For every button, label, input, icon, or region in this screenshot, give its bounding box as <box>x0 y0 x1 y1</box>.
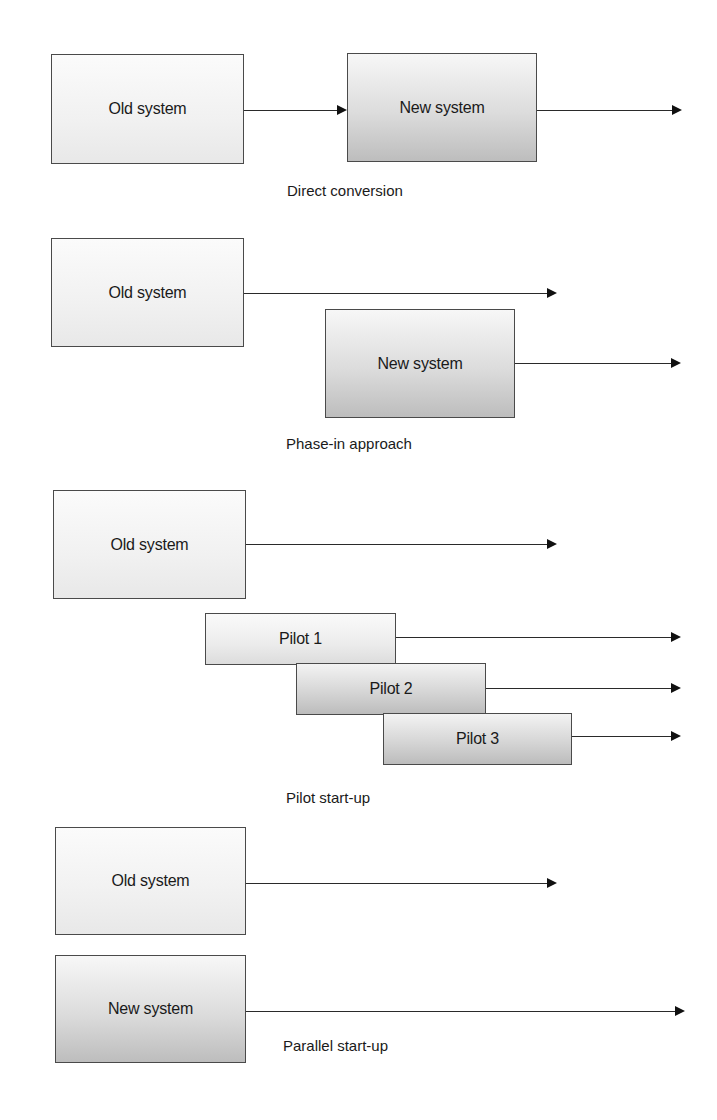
box-label: Old system <box>108 100 186 118</box>
caption-phase-in-approach: Phase-in approach <box>286 435 412 452</box>
arrow-pilot-3-onward <box>572 736 679 737</box>
caption-pilot-start-up: Pilot start-up <box>286 789 370 806</box>
arrow-new-onward <box>515 363 679 364</box>
new-system-box: New system <box>55 955 246 1063</box>
box-label: New system <box>108 1000 193 1018</box>
box-label: Old system <box>108 284 186 302</box>
pilot-2-box: Pilot 2 <box>296 663 486 715</box>
pilot-1-box: Pilot 1 <box>205 613 396 665</box>
arrow-new-onward <box>246 1011 683 1012</box>
new-system-box: New system <box>325 309 515 418</box>
caption-direct-conversion: Direct conversion <box>287 182 403 199</box>
arrow-old-continues <box>244 293 555 294</box>
box-label: Old system <box>111 872 189 890</box>
caption-parallel-start-up: Parallel start-up <box>283 1037 388 1054</box>
old-system-box: Old system <box>51 54 244 164</box>
arrow-old-continues <box>246 883 555 884</box>
arrow-old-continues <box>246 544 555 545</box>
pilot-3-box: Pilot 3 <box>383 713 572 765</box>
arrow-old-to-new <box>244 110 345 111</box>
box-label: Old system <box>110 536 188 554</box>
box-label: Pilot 1 <box>279 630 322 648</box>
arrow-pilot-2-onward <box>486 688 679 689</box>
box-label: Pilot 3 <box>456 730 499 748</box>
box-label: New system <box>399 99 484 117</box>
old-system-box: Old system <box>53 490 246 599</box>
box-label: New system <box>377 355 462 373</box>
old-system-box: Old system <box>51 238 244 347</box>
new-system-box: New system <box>347 53 537 162</box>
arrow-new-onward <box>537 110 680 111</box>
arrow-pilot-1-onward <box>396 637 679 638</box>
box-label: Pilot 2 <box>369 680 412 698</box>
old-system-box: Old system <box>55 827 246 935</box>
